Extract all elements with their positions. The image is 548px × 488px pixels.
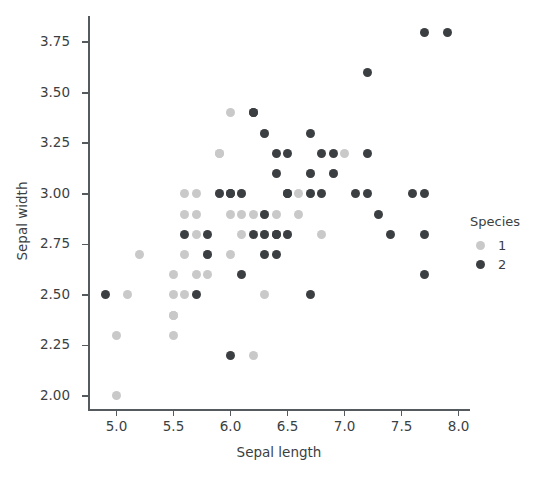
data-point — [294, 210, 303, 219]
data-point — [180, 189, 189, 198]
y-tick-label: 2.00 — [8, 389, 70, 403]
data-point — [329, 149, 338, 158]
data-point — [192, 230, 201, 239]
legend-item-label: 2 — [498, 257, 506, 272]
data-point — [374, 210, 383, 219]
data-point — [443, 28, 452, 37]
scatter-plot-figure: 2.002.252.502.753.003.253.503.75 5.05.56… — [0, 0, 548, 488]
data-point — [363, 68, 372, 77]
x-tick — [458, 410, 460, 416]
data-point — [169, 331, 178, 340]
data-point — [306, 169, 315, 178]
data-point — [306, 189, 315, 198]
data-point — [283, 149, 292, 158]
data-point — [249, 108, 258, 117]
data-point — [260, 210, 269, 219]
data-point — [420, 270, 429, 279]
data-point — [192, 210, 201, 219]
data-point — [260, 129, 269, 138]
data-point — [215, 189, 224, 198]
data-point — [112, 331, 121, 340]
legend-item[interactable]: 1 — [470, 236, 548, 255]
x-tick — [173, 410, 175, 416]
data-point — [260, 250, 269, 259]
x-tick-label: 6.5 — [258, 420, 318, 434]
data-point — [192, 189, 201, 198]
data-point — [226, 189, 235, 198]
data-point — [260, 230, 269, 239]
data-point — [420, 189, 429, 198]
legend-item-label: 1 — [498, 238, 506, 253]
data-point — [123, 290, 132, 299]
data-point — [420, 230, 429, 239]
plot-data-area — [88, 16, 470, 410]
data-point — [237, 210, 246, 219]
data-point — [260, 290, 269, 299]
legend-marker-icon — [476, 260, 485, 269]
x-tick-label: 8.0 — [429, 420, 489, 434]
x-tick — [287, 410, 289, 416]
data-point — [203, 250, 212, 259]
x-tick-label: 6.0 — [201, 420, 261, 434]
data-point — [363, 189, 372, 198]
data-point — [237, 189, 246, 198]
data-point — [226, 351, 235, 360]
data-point — [317, 189, 326, 198]
data-point — [283, 189, 292, 198]
data-point — [363, 149, 372, 158]
data-point — [283, 230, 292, 239]
data-point — [226, 108, 235, 117]
data-point — [169, 311, 178, 320]
legend-title: Species — [470, 214, 548, 229]
data-point — [272, 250, 281, 259]
data-point — [294, 189, 303, 198]
data-point — [272, 210, 281, 219]
x-tick-label: 7.5 — [372, 420, 432, 434]
data-point — [237, 270, 246, 279]
x-axis-label: Sepal length — [88, 444, 470, 460]
x-tick — [230, 410, 232, 416]
data-point — [249, 230, 258, 239]
data-point — [112, 391, 121, 400]
legend-marker-icon — [476, 241, 485, 250]
data-point — [386, 230, 395, 239]
data-point — [272, 149, 281, 158]
x-tick — [401, 410, 403, 416]
data-point — [203, 230, 212, 239]
data-point — [169, 290, 178, 299]
data-point — [101, 290, 110, 299]
data-point — [249, 210, 258, 219]
data-point — [237, 230, 246, 239]
legend-item[interactable]: 2 — [470, 255, 548, 274]
data-point — [420, 28, 429, 37]
data-point — [180, 230, 189, 239]
data-point — [226, 210, 235, 219]
data-point — [329, 169, 338, 178]
data-point — [317, 230, 326, 239]
data-point — [340, 149, 349, 158]
data-point — [180, 250, 189, 259]
x-tick-label: 5.0 — [87, 420, 147, 434]
data-point — [180, 210, 189, 219]
data-point — [249, 351, 258, 360]
legend: Species 12 — [470, 214, 548, 274]
data-point — [408, 189, 417, 198]
data-point — [203, 270, 212, 279]
data-point — [180, 290, 189, 299]
data-point — [192, 290, 201, 299]
data-point — [215, 149, 224, 158]
legend-entries: 12 — [470, 236, 548, 274]
y-axis-label: Sepal width — [14, 141, 30, 301]
data-point — [135, 250, 144, 259]
data-point — [169, 270, 178, 279]
data-point — [272, 230, 281, 239]
y-tick-label: 3.50 — [8, 86, 70, 100]
data-point — [306, 129, 315, 138]
y-tick-label: 3.75 — [8, 36, 70, 50]
data-point — [192, 270, 201, 279]
x-tick-label: 7.0 — [315, 420, 375, 434]
data-point — [226, 250, 235, 259]
x-tick — [344, 410, 346, 416]
x-tick-label: 5.5 — [144, 420, 204, 434]
y-tick-label: 2.25 — [8, 339, 70, 353]
